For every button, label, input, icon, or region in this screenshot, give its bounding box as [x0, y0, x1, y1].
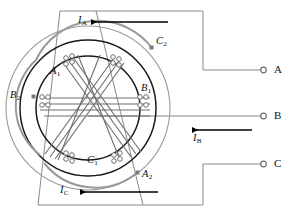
slot-conductor [64, 157, 69, 162]
winding-diagram: IA IB IC A1 B1 B2 C1 C2 A2 A B C [0, 0, 294, 216]
terminal-label-c: C [274, 158, 281, 169]
coil-label-a2: A2 [142, 169, 152, 180]
terminal-c-circle[interactable] [261, 161, 267, 167]
slot-conductor [70, 54, 75, 59]
slot-conductor [46, 95, 51, 100]
slot-conductor [117, 57, 122, 62]
slot-conductor [118, 157, 123, 162]
b2-terminal-dot [32, 95, 36, 99]
terminal-label-a: A [274, 64, 282, 75]
slot-conductor [70, 159, 75, 164]
slot-conductor [70, 153, 75, 158]
slot-conductor [64, 56, 69, 61]
coil-side-c-2 [50, 61, 119, 157]
coil-side-c-4 [58, 55, 100, 160]
slot-conductor [118, 151, 123, 156]
slot-conductor [64, 62, 69, 67]
slot-conductor [112, 159, 117, 164]
coil-label-a1: A1 [50, 66, 60, 77]
current-label-ia: IA [78, 15, 87, 26]
coil-side-a-1 [62, 61, 131, 157]
slot-conductor [111, 61, 116, 66]
winding-diagram-svg [0, 0, 294, 216]
coil-label-c2: C2 [156, 36, 167, 47]
current-label-ib: IB [193, 133, 201, 144]
external-terminals[interactable] [261, 67, 267, 167]
slot-conductor [40, 95, 45, 100]
coil-label-b1: B1 [141, 83, 151, 94]
terminal-label-b: B [274, 110, 281, 121]
slot-conductor [144, 95, 149, 100]
slot-conductor [138, 95, 143, 100]
slot-conductor [70, 60, 75, 65]
slot-conductor [40, 103, 45, 108]
slot-conductor [112, 153, 117, 158]
slot-conductor [117, 63, 122, 68]
c2-terminal-dot [150, 46, 154, 50]
current-label-ic: IC [60, 185, 68, 196]
slot-conductor [144, 103, 149, 108]
terminal-a-circle[interactable] [261, 67, 267, 73]
slot-conductor [138, 103, 143, 108]
coil-label-b2: B2 [10, 90, 20, 101]
coil-side-a-4 [78, 55, 120, 160]
slot-conductor [46, 103, 51, 108]
a2-terminal-dot [136, 171, 140, 175]
coil-label-c1: C1 [87, 155, 98, 166]
slot-conductor [111, 55, 116, 60]
terminal-b-circle[interactable] [261, 113, 267, 119]
slot-conductor [64, 151, 69, 156]
